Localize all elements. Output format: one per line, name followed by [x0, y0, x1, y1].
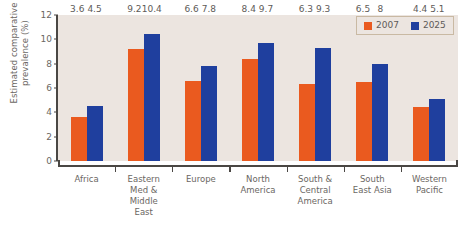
y-axis-tick-label: 0 [46, 157, 52, 166]
bar-wrapper[interactable]: 8 [372, 15, 388, 161]
bar-value-label: 4.4 [413, 5, 427, 14]
bar-wrapper[interactable]: 6.6 [185, 15, 201, 161]
bar-2025-south-&-central-america[interactable]: 9.3 [315, 48, 331, 161]
bars-layer: 3.64.59.210.46.67.88.49.76.39.36.584.45.… [58, 15, 458, 161]
bar-wrapper[interactable]: 3.6 [71, 15, 87, 161]
bar-wrapper[interactable]: 10.4 [144, 15, 160, 161]
bar-value-label: 8.4 [242, 5, 256, 14]
x-axis-label: South & Central America [287, 174, 344, 207]
x-axis-separator [401, 166, 402, 172]
bar-wrapper[interactable]: 6.3 [299, 15, 315, 161]
bar-wrapper[interactable]: 9.3 [315, 15, 331, 161]
x-axis-separator [172, 166, 173, 172]
bar-wrapper[interactable]: 6.5 [356, 15, 372, 161]
bar-2007-eastern-med-&-middle-east[interactable]: 9.2 [128, 49, 144, 161]
bar-2025-europe[interactable]: 7.8 [201, 66, 217, 161]
x-axis-separator [115, 166, 116, 172]
bar-2025-south-east-asia[interactable]: 8 [372, 64, 388, 161]
legend-item-2007[interactable]: 2007 [364, 21, 399, 30]
bar-wrapper[interactable]: 7.8 [201, 15, 217, 161]
bar-2025-africa[interactable]: 4.5 [87, 106, 103, 161]
bar-value-label: 9.3 [316, 5, 330, 14]
bar-value-label: 3.6 [70, 5, 84, 14]
x-axis-separator [344, 166, 345, 172]
bar-2025-western-pacific[interactable]: 5.1 [429, 99, 445, 161]
bar-group: 6.67.8 [172, 15, 229, 161]
bar-value-label: 4.5 [87, 5, 101, 14]
bar-wrapper[interactable]: 9.2 [128, 15, 144, 161]
x-axis-label: North America [229, 174, 286, 196]
plot-area: 3.64.59.210.46.67.88.49.76.39.36.584.45.… [58, 15, 458, 161]
x-axis-labels: AfricaEastern Med & Middle EastEuropeNor… [58, 174, 458, 218]
bar-2025-north-america[interactable]: 9.7 [258, 43, 274, 161]
bar-2007-africa[interactable]: 3.6 [71, 117, 87, 161]
x-axis-separator [287, 166, 288, 172]
y-axis-tick-label: 2 [46, 132, 52, 141]
x-axis-separator [229, 166, 230, 172]
bar-group: 6.58 [344, 15, 401, 161]
x-axis-label: Western Pacific [401, 174, 458, 196]
x-axis-label: Europe [172, 174, 229, 185]
bar-value-label: 7.8 [202, 5, 216, 14]
bar-value-label: 10.4 [142, 5, 162, 14]
y-axis-ticks: 024681012 [36, 10, 58, 166]
y-axis-tick-label: 4 [46, 108, 52, 117]
bar-2025-eastern-med-&-middle-east[interactable]: 10.4 [144, 34, 160, 161]
bar-2007-western-pacific[interactable]: 4.4 [413, 107, 429, 161]
bar-value-label: 9.7 [259, 5, 273, 14]
bar-2007-south-east-asia[interactable]: 6.5 [356, 82, 372, 161]
x-axis-label: Eastern Med & Middle East [115, 174, 172, 218]
x-axis-label: Africa [58, 174, 115, 185]
legend-label: 2025 [423, 21, 446, 30]
y-axis-tick-label: 12 [41, 11, 52, 20]
bar-2007-south-&-central-america[interactable]: 6.3 [299, 84, 315, 161]
y-axis-tick-label: 10 [41, 35, 52, 44]
legend-swatch-icon [364, 22, 372, 30]
bar-wrapper[interactable]: 4.5 [87, 15, 103, 161]
bar-chart: Estimated comparative prevalence (%) 024… [0, 0, 468, 233]
bar-2007-north-america[interactable]: 8.4 [242, 59, 258, 161]
bar-group: 3.64.5 [58, 15, 115, 161]
bar-group: 8.49.7 [229, 15, 286, 161]
bar-value-label: 9.2 [127, 5, 141, 14]
bar-wrapper[interactable]: 9.7 [258, 15, 274, 161]
bar-group: 9.210.4 [115, 15, 172, 161]
y-axis-title: Estimated comparative prevalence (%) [9, 0, 39, 123]
x-axis-separators [58, 166, 458, 173]
bar-value-label: 5.1 [430, 5, 444, 14]
bar-wrapper[interactable]: 8.4 [242, 15, 258, 161]
x-axis-label: South East Asia [344, 174, 401, 196]
bar-wrapper[interactable]: 5.1 [429, 15, 445, 161]
legend-swatch-icon [411, 22, 419, 30]
chart-legend: 20072025 [356, 16, 454, 35]
bar-wrapper[interactable]: 4.4 [413, 15, 429, 161]
legend-item-2025[interactable]: 2025 [411, 21, 446, 30]
bar-2007-europe[interactable]: 6.6 [185, 81, 201, 161]
bar-group: 4.45.1 [401, 15, 458, 161]
legend-label: 2007 [376, 21, 399, 30]
y-axis-tick-label: 8 [46, 59, 52, 68]
bar-value-label: 8 [377, 5, 383, 14]
bar-group: 6.39.3 [287, 15, 344, 161]
bar-value-label: 6.6 [184, 5, 198, 14]
bar-value-label: 6.3 [299, 5, 313, 14]
bar-value-label: 6.5 [356, 5, 370, 14]
y-axis-tick-label: 6 [46, 84, 52, 93]
